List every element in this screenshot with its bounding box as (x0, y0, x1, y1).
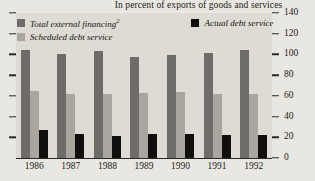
y-tick-label-100: 100 (284, 50, 298, 60)
legend-item-actual: Actual debt service (191, 18, 273, 28)
tick-mark-icon (272, 74, 279, 75)
y-tick-left-140 (9, 12, 16, 13)
chart-title: In percent of exports of goods and servi… (0, 0, 311, 10)
bar-1991-total (204, 53, 213, 158)
bar-1988-scheduled (103, 94, 112, 158)
bar-1987-actual (75, 134, 84, 158)
bar-1986-actual (39, 130, 48, 158)
bar-1990-actual (185, 134, 194, 158)
y-tick-label-140: 140 (284, 8, 298, 18)
x-axis-label-1987: 1987 (54, 161, 87, 171)
y-tick-label-20: 20 (284, 133, 294, 143)
bar-1988-total (94, 51, 103, 158)
y-tick-right-40: 40 (272, 112, 294, 122)
legend-item-total: Total external financing2 (17, 17, 119, 29)
tick-mark-icon (9, 12, 16, 13)
tick-mark-icon (9, 95, 16, 96)
legend-swatch-sched-icon (17, 33, 25, 41)
y-tick-left-120 (9, 33, 16, 34)
x-axis-label-1989: 1989 (127, 161, 160, 171)
tick-mark-icon (272, 137, 279, 138)
bar-1988-actual (112, 136, 121, 158)
y-tick-left-100 (9, 54, 16, 55)
y-tick-label-120: 120 (284, 29, 298, 39)
legend-swatch-actual-icon (191, 19, 199, 27)
bar-1987-scheduled (66, 94, 75, 158)
bar-1990-total (167, 55, 176, 158)
tick-mark-icon (272, 12, 279, 13)
y-tick-right-60: 60 (272, 91, 294, 101)
y-tick-left-80 (9, 74, 16, 75)
legend-label-total: Total external financing2 (30, 17, 119, 29)
bar-1989-total (130, 57, 139, 159)
bar-1989-actual (148, 134, 157, 158)
x-axis-label-1986: 1986 (18, 161, 51, 171)
tick-mark-icon (272, 157, 279, 158)
bar-1992-total (240, 50, 249, 158)
tick-mark-icon (9, 54, 16, 55)
legend-row-2: Scheduled debt service (17, 31, 262, 42)
y-tick-left-60 (9, 95, 16, 96)
y-tick-label-60: 60 (284, 91, 294, 101)
y-tick-right-0: 0 (272, 153, 289, 163)
chart-legend: Total external financing2 Actual debt se… (17, 17, 262, 45)
x-axis-labels: 1986198719881989199019911992 (16, 161, 272, 171)
legend-swatch-total-icon (17, 19, 25, 27)
tick-mark-icon (9, 33, 16, 34)
y-tick-label-80: 80 (284, 70, 294, 80)
tick-mark-icon (272, 95, 279, 96)
bar-1986-scheduled (30, 91, 39, 158)
legend-label-actual: Actual debt service (204, 18, 273, 28)
tick-mark-icon (272, 116, 279, 117)
y-tick-left-20 (9, 137, 16, 138)
y-tick-right-100: 100 (272, 50, 298, 60)
y-tick-left-40 (9, 116, 16, 117)
bar-1992-actual (258, 135, 267, 158)
legend-footnote-total: 2 (116, 17, 119, 24)
tick-mark-icon (9, 137, 16, 138)
y-tick-label-40: 40 (284, 112, 294, 122)
bar-1991-scheduled (213, 94, 222, 158)
y-tick-right-80: 80 (272, 70, 294, 80)
tick-mark-icon (9, 74, 16, 75)
legend-item-sched: Scheduled debt service (17, 32, 112, 42)
x-axis-label-1988: 1988 (91, 161, 124, 171)
chart-root: In percent of exports of goods and servi… (0, 0, 315, 181)
bar-1990-scheduled (176, 92, 185, 158)
x-axis-label-1992: 1992 (237, 161, 270, 171)
bar-1986-total (21, 50, 30, 158)
x-axis-label-1991: 1991 (201, 161, 234, 171)
legend-row-1: Total external financing2 Actual debt se… (17, 17, 262, 28)
bar-1991-actual (222, 135, 231, 158)
y-tick-right-120: 120 (272, 29, 298, 39)
bar-1992-scheduled (249, 94, 258, 158)
y-axis-right-ticks: 140120100806040200 (272, 13, 313, 158)
bar-1987-total (57, 54, 66, 158)
y-tick-right-140: 140 (272, 8, 298, 18)
x-axis-label-1990: 1990 (164, 161, 197, 171)
legend-label-sched: Scheduled debt service (30, 32, 112, 42)
tick-mark-icon (272, 54, 279, 55)
y-tick-label-0: 0 (284, 153, 289, 163)
y-axis-left-ticks (5, 13, 16, 158)
y-tick-right-20: 20 (272, 133, 294, 143)
bar-1989-scheduled (139, 93, 148, 158)
tick-mark-icon (272, 33, 279, 34)
tick-mark-icon (9, 116, 16, 117)
